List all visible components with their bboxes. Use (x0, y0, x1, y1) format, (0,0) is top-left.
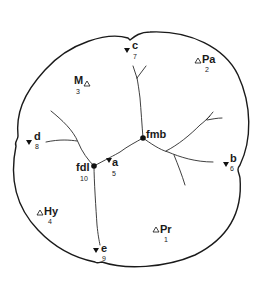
groove-fmb-right (143, 138, 213, 162)
ridge-c-triangle-icon (124, 48, 130, 53)
ridge-d-number: 8 (35, 143, 39, 150)
ridge-c-label: c (132, 39, 138, 51)
groove-fmb-up (137, 78, 143, 138)
fossa-fdl-number: 10 (80, 175, 88, 182)
groove-fdl-fmb (94, 138, 143, 166)
ridge-e-triangle-icon (93, 248, 99, 253)
groove-upper-right-fork-b (207, 118, 222, 120)
cusp-pa-triangle-icon (195, 58, 201, 63)
fossa-fmb-dot-icon (140, 135, 146, 141)
cusp-m-number: 3 (76, 88, 80, 95)
cusp-hy-number: 4 (48, 218, 52, 225)
ridge-d-triangle-icon (26, 140, 32, 145)
groove-fork-c-left (133, 66, 137, 78)
ridge-d-label: d (34, 130, 41, 142)
fossa-fdl-dot-icon (91, 163, 97, 169)
ridge-e-number: 9 (102, 255, 106, 262)
cusp-pr-triangle-icon (153, 227, 159, 232)
ridge-c-number: 7 (133, 53, 137, 60)
cusp-pa-number: 2 (205, 66, 209, 73)
groove-fmb-lower-right (174, 155, 185, 185)
fossa-fmb-label: fmb (146, 128, 166, 140)
groove-fdl-down (94, 166, 100, 245)
cusp-m-triangle-icon (84, 81, 90, 86)
tooth-outline (14, 32, 249, 267)
fossa-fdl-label: fdl (76, 161, 89, 173)
cusp-pr-number: 1 (164, 236, 168, 243)
ridge-b-number: 6 (230, 165, 234, 172)
ridge-e-label: e (101, 242, 107, 254)
groove-fdl-upper-left (51, 111, 94, 166)
ridge-b-label: b (230, 152, 237, 164)
ridge-a-label: a (112, 156, 119, 168)
cusp-hy-label: Hy (44, 205, 59, 217)
cusp-pa-label: Pa (202, 53, 216, 65)
cusp-m-label: M (74, 74, 83, 86)
groove-fmb-upper-right (166, 116, 210, 151)
groove-to-d (46, 140, 77, 142)
tooth-occlusal-diagram: fmb fdl 10 Pr 1 Pa 2 M 3 Hy 4 a 5 b 6 c … (0, 0, 263, 282)
ridge-a-number: 5 (112, 170, 116, 177)
cusp-hy-triangle-icon (37, 210, 43, 215)
cusp-pr-label: Pr (160, 223, 172, 235)
ridge-b-triangle-icon (223, 162, 229, 167)
groove-fork-c-right (137, 66, 146, 78)
